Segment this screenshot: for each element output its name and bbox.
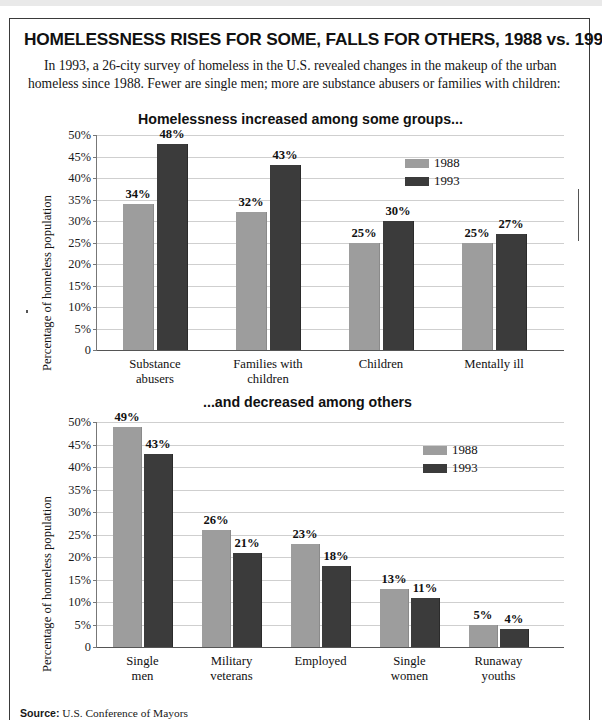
x-axis-category-label: Singlemen xyxy=(126,654,158,683)
bar-1993: 30% xyxy=(383,221,414,350)
bar-1988: 25% xyxy=(349,243,380,351)
bar-value-label: 4% xyxy=(505,612,524,627)
x-axis-category-label: Families withchildren xyxy=(233,357,302,386)
bar-value-label: 11% xyxy=(413,581,438,596)
y-axis-tick-label: 20% xyxy=(68,550,91,565)
y-axis-tick-mark xyxy=(93,512,97,513)
y-axis-tick-mark xyxy=(93,135,97,136)
y-axis-tick-label: 0 xyxy=(85,640,91,655)
x-axis-category-label: Runawayyouths xyxy=(475,654,523,683)
bar-1993: 11% xyxy=(411,598,440,648)
y-axis-tick-mark xyxy=(93,221,97,222)
y-axis-tick-label: 0 xyxy=(85,343,91,358)
bar-1988: 49% xyxy=(113,427,142,648)
y-axis-tick-label: 30% xyxy=(68,505,91,520)
y-axis-tick-label: 20% xyxy=(68,257,91,272)
y-axis-tick-label: 30% xyxy=(68,214,91,229)
deck-text: In 1993, a 26-city survey of homeless in… xyxy=(28,58,561,91)
bar-1988: 25% xyxy=(462,243,493,351)
bar-value-label: 34% xyxy=(125,187,150,202)
y-axis-tick-label: 45% xyxy=(68,149,91,164)
bar-value-label: 49% xyxy=(114,410,139,425)
bar-value-label: 5% xyxy=(474,608,493,623)
y-axis-tick-label: 15% xyxy=(68,572,91,587)
y-axis-tick-mark xyxy=(93,422,97,423)
y-axis-tick-label: 50% xyxy=(68,415,91,430)
source-text: U.S. Conference of Mayors xyxy=(62,707,188,719)
margin-speck-artifact xyxy=(26,310,28,313)
legend-swatch-1988-icon xyxy=(405,159,429,168)
legend-label-1993: 1993 xyxy=(452,461,478,476)
x-axis-category-label: Children xyxy=(359,357,403,372)
bar-group: 25%30%Children xyxy=(349,135,413,350)
bar-value-label: 27% xyxy=(498,217,523,232)
bar-value-label: 30% xyxy=(385,204,410,219)
y-axis-tick-mark xyxy=(93,350,97,351)
bar-value-label: 26% xyxy=(203,513,228,528)
bar-value-label: 13% xyxy=(381,572,406,587)
bar-value-label: 21% xyxy=(234,536,259,551)
y-axis-tick-mark xyxy=(93,625,97,626)
bar-value-label: 43% xyxy=(145,437,170,452)
y-axis-tick-label: 35% xyxy=(68,482,91,497)
chart1-plot-area: 50%45%40%35%30%25%20%15%10%5%034%48%Subs… xyxy=(96,135,564,351)
bar-group: 26%21%Militaryveterans xyxy=(202,422,261,647)
y-axis-tick-mark xyxy=(93,200,97,201)
y-axis-tick-mark xyxy=(93,557,97,558)
bar-value-label: 18% xyxy=(323,549,348,564)
bar-1988: 5% xyxy=(469,625,498,648)
y-axis-tick-label: 40% xyxy=(68,460,91,475)
bar-value-label: 25% xyxy=(351,226,376,241)
bar-value-label: 43% xyxy=(272,148,297,163)
y-axis-tick-mark xyxy=(93,580,97,581)
y-axis-tick-label: 50% xyxy=(68,128,91,143)
chart1-title: Homelessness increased among some groups… xyxy=(10,111,591,127)
article-deck: In 1993, a 26-city survey of homeless in… xyxy=(28,57,576,92)
bar-1988: 26% xyxy=(202,530,231,647)
legend-swatch-1988-icon xyxy=(423,446,447,455)
bar-value-label: 25% xyxy=(464,226,489,241)
chart2-plot-area: 50%45%40%35%30%25%20%15%10%5%049%43%Sing… xyxy=(96,422,564,648)
y-axis-tick-label: 15% xyxy=(68,278,91,293)
y-axis-tick-label: 5% xyxy=(74,321,91,336)
chart1-legend: 1988 1993 xyxy=(405,155,460,191)
legend-label-1993: 1993 xyxy=(434,174,460,189)
article-frame: HOMELESSNESS RISES FOR SOME, FALLS FOR O… xyxy=(9,18,590,720)
y-axis-tick-label: 40% xyxy=(68,171,91,186)
y-axis-tick-mark xyxy=(93,264,97,265)
y-axis-tick-mark xyxy=(93,602,97,603)
y-axis-tick-label: 25% xyxy=(68,527,91,542)
legend-swatch-1993-icon xyxy=(405,177,429,186)
chart-increased: Homelessness increased among some groups… xyxy=(10,111,591,391)
bar-value-label: 23% xyxy=(292,527,317,542)
bar-1988: 13% xyxy=(380,589,409,648)
bar-1988: 34% xyxy=(123,204,154,350)
legend-swatch-1993-icon xyxy=(423,464,447,473)
y-axis-tick-mark xyxy=(93,490,97,491)
bar-1993: 4% xyxy=(500,629,529,647)
legend-item-1988: 1988 xyxy=(423,442,478,458)
page-title: HOMELESSNESS RISES FOR SOME, FALLS FOR O… xyxy=(24,29,576,50)
source-label: Source: xyxy=(20,707,59,719)
bar-value-label: 32% xyxy=(238,195,263,210)
y-axis-tick-label: 5% xyxy=(74,617,91,632)
y-axis-tick-mark xyxy=(93,243,97,244)
y-axis-tick-mark xyxy=(93,286,97,287)
bar-1993: 27% xyxy=(496,234,527,350)
y-axis-tick-mark xyxy=(93,647,97,648)
bar-1993: 43% xyxy=(144,454,173,648)
y-axis-tick-mark xyxy=(93,178,97,179)
y-axis-tick-label: 45% xyxy=(68,437,91,452)
bar-1993: 43% xyxy=(270,165,301,350)
bar-1993: 21% xyxy=(233,553,262,648)
bar-1993: 48% xyxy=(157,144,188,350)
bar-group: 34%48%Substanceabusers xyxy=(123,135,187,350)
bar-value-label: 48% xyxy=(159,127,184,142)
y-axis-tick-label: 10% xyxy=(68,300,91,315)
bar-1993: 18% xyxy=(322,566,351,647)
legend-item-1993: 1993 xyxy=(423,460,478,476)
y-axis-tick-mark xyxy=(93,329,97,330)
legend-item-1993: 1993 xyxy=(405,173,460,189)
y-axis-tick-label: 25% xyxy=(68,235,91,250)
bar-group: 32%43%Families withchildren xyxy=(236,135,300,350)
